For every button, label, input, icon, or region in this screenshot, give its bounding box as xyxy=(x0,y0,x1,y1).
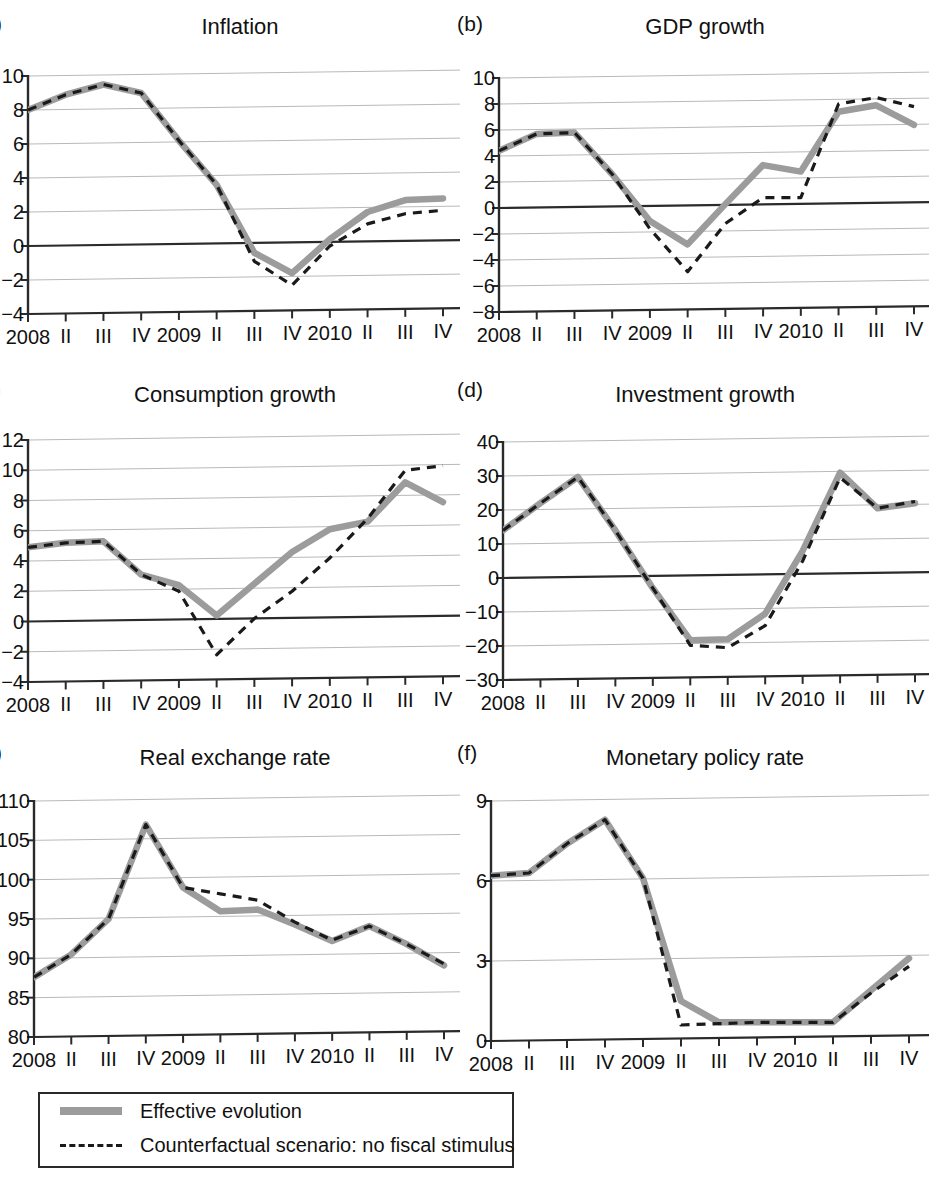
svg-text:II: II xyxy=(211,691,222,713)
svg-text:2: 2 xyxy=(13,580,24,602)
svg-text:II: II xyxy=(833,319,844,341)
panel-a: (a) Inflation −4−202468102008IIIIIIV2009… xyxy=(0,0,469,360)
svg-text:2: 2 xyxy=(484,171,495,193)
svg-text:II: II xyxy=(835,687,846,709)
svg-text:II: II xyxy=(531,323,542,345)
svg-text:2010: 2010 xyxy=(779,320,824,342)
svg-text:−4: −4 xyxy=(1,671,24,693)
svg-text:II: II xyxy=(362,689,373,711)
svg-text:6: 6 xyxy=(13,133,24,155)
svg-text:IV: IV xyxy=(283,690,303,712)
panel-f-plot: 03692008IIIIIIV2009IIIIIIV2010IIIIIIV xyxy=(455,787,929,1072)
panel-d-title: Investment growth xyxy=(555,382,855,408)
svg-text:III: III xyxy=(95,693,112,715)
svg-text:III: III xyxy=(246,323,263,345)
svg-text:20: 20 xyxy=(477,499,499,521)
legend-item-effective: Effective evolution xyxy=(40,1094,512,1128)
svg-text:IV: IV xyxy=(748,1049,768,1071)
svg-text:0: 0 xyxy=(484,197,495,219)
svg-text:9: 9 xyxy=(476,790,487,812)
panel-b-letter: (b) xyxy=(457,12,483,36)
panel-f: (f) Monetary policy rate 03692008IIIIIIV… xyxy=(455,735,938,1085)
svg-text:−30: −30 xyxy=(465,669,499,691)
svg-text:II: II xyxy=(362,321,373,343)
svg-text:6: 6 xyxy=(13,520,24,542)
svg-text:−2: −2 xyxy=(1,641,24,663)
svg-text:2010: 2010 xyxy=(773,1049,818,1071)
svg-text:6: 6 xyxy=(484,119,495,141)
svg-text:4: 4 xyxy=(484,145,495,167)
panel-e-letter: (e) xyxy=(0,741,2,765)
svg-text:10: 10 xyxy=(477,533,499,555)
panel-e-plot: 808590951001051102008IIIIIIV2009IIIIIIV2… xyxy=(0,787,460,1072)
svg-text:IV: IV xyxy=(754,320,774,342)
legend-item-counterfactual: Counterfactual scenario: no fiscal stimu… xyxy=(40,1128,512,1162)
panel-a-plot: −4−202468102008IIIIIIV2009IIIIIIV2010III… xyxy=(0,60,460,350)
svg-text:IV: IV xyxy=(756,688,776,710)
svg-text:III: III xyxy=(711,1050,728,1072)
svg-text:2009: 2009 xyxy=(161,1047,206,1069)
svg-text:2009: 2009 xyxy=(621,1051,666,1072)
svg-text:0: 0 xyxy=(488,567,499,589)
svg-text:2010: 2010 xyxy=(308,690,353,712)
svg-text:30: 30 xyxy=(477,465,499,487)
svg-text:IV: IV xyxy=(906,686,926,708)
svg-text:85: 85 xyxy=(8,987,30,1009)
svg-text:2010: 2010 xyxy=(780,688,825,710)
svg-text:110: 110 xyxy=(0,790,30,812)
svg-text:2008: 2008 xyxy=(481,692,526,714)
svg-text:IV: IV xyxy=(434,320,454,342)
svg-text:−10: −10 xyxy=(465,601,499,623)
svg-text:IV: IV xyxy=(905,318,925,340)
svg-text:2008: 2008 xyxy=(6,694,51,716)
svg-text:40: 40 xyxy=(477,431,499,453)
svg-text:2010: 2010 xyxy=(310,1045,355,1067)
svg-text:−6: −6 xyxy=(472,275,495,297)
panel-b-title: GDP growth xyxy=(565,14,845,40)
svg-text:III: III xyxy=(863,1048,880,1070)
svg-text:III: III xyxy=(570,691,587,713)
panel-c-title: Consumption growth xyxy=(70,382,400,408)
svg-text:III: III xyxy=(95,325,112,347)
svg-text:II: II xyxy=(66,1048,77,1070)
svg-text:95: 95 xyxy=(8,908,30,930)
svg-text:II: II xyxy=(523,1052,534,1072)
panel-d: (d) Investment growth −30−20−10010203040… xyxy=(455,370,938,730)
svg-text:II: II xyxy=(535,691,546,713)
svg-text:IV: IV xyxy=(435,1043,455,1065)
svg-text:II: II xyxy=(827,1048,838,1070)
panel-e: (e) Real exchange rate 80859095100105110… xyxy=(0,735,469,1085)
svg-text:0: 0 xyxy=(476,1030,487,1052)
svg-text:−20: −20 xyxy=(465,635,499,657)
svg-text:8: 8 xyxy=(13,99,24,121)
svg-text:2008: 2008 xyxy=(12,1049,57,1071)
panel-e-title: Real exchange rate xyxy=(90,745,380,771)
svg-text:III: III xyxy=(397,689,414,711)
figure-panel-grid: (a) Inflation −4−202468102008IIIIIIV2009… xyxy=(0,0,938,1180)
svg-text:IV: IV xyxy=(606,690,626,712)
svg-text:4: 4 xyxy=(13,167,24,189)
svg-text:III: III xyxy=(868,319,885,341)
svg-text:12: 12 xyxy=(2,429,24,451)
svg-text:2: 2 xyxy=(13,201,24,223)
svg-text:III: III xyxy=(869,687,886,709)
svg-text:100: 100 xyxy=(0,869,30,891)
svg-text:IV: IV xyxy=(900,1047,920,1069)
svg-text:II: II xyxy=(675,1050,686,1072)
svg-text:10: 10 xyxy=(2,459,24,481)
svg-text:IV: IV xyxy=(603,322,623,344)
svg-text:II: II xyxy=(685,689,696,711)
svg-text:10: 10 xyxy=(473,67,495,89)
svg-text:II: II xyxy=(60,693,71,715)
svg-text:III: III xyxy=(719,689,736,711)
panel-f-letter: (f) xyxy=(457,741,477,765)
panel-a-title: Inflation xyxy=(100,14,380,40)
svg-text:80: 80 xyxy=(8,1026,30,1048)
svg-text:III: III xyxy=(249,1046,266,1068)
panel-c-plot: −4−20246810122008IIIIIIV2009IIIIIIV2010I… xyxy=(0,428,460,718)
svg-text:2008: 2008 xyxy=(477,324,522,346)
panel-d-plot: −30−20−100102030402008IIIIIIV2009IIIIIIV… xyxy=(455,428,929,718)
svg-text:−2: −2 xyxy=(1,269,24,291)
svg-text:2010: 2010 xyxy=(308,322,353,344)
svg-text:4: 4 xyxy=(13,550,24,572)
